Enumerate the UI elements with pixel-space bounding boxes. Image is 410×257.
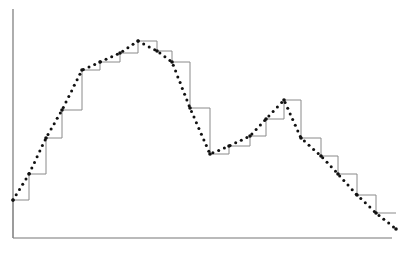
vertex-point bbox=[27, 172, 31, 176]
dot bbox=[294, 124, 297, 127]
dot bbox=[286, 107, 289, 110]
vertex-point bbox=[98, 60, 102, 64]
vertex-point bbox=[299, 136, 303, 140]
dot bbox=[205, 144, 208, 147]
dot bbox=[38, 150, 41, 153]
dot bbox=[190, 110, 193, 113]
dot bbox=[67, 95, 70, 98]
dot bbox=[368, 206, 371, 209]
dot bbox=[197, 127, 200, 130]
dot bbox=[211, 151, 214, 154]
vertex-point bbox=[155, 49, 159, 53]
dot bbox=[56, 117, 59, 120]
dot bbox=[47, 133, 50, 136]
dot bbox=[217, 149, 220, 152]
dot bbox=[105, 58, 108, 61]
dot bbox=[223, 146, 226, 149]
dot bbox=[185, 99, 188, 102]
dot bbox=[176, 75, 179, 78]
dot bbox=[359, 197, 362, 200]
dot bbox=[267, 115, 270, 118]
dot bbox=[308, 144, 311, 147]
dot bbox=[255, 128, 258, 131]
dot bbox=[88, 65, 91, 68]
dot bbox=[259, 124, 262, 127]
vertex-point bbox=[44, 136, 48, 140]
vertex-point bbox=[282, 98, 286, 102]
dot bbox=[326, 161, 329, 164]
dot bbox=[21, 183, 24, 186]
dot bbox=[158, 52, 161, 55]
dot bbox=[303, 140, 306, 143]
dot bbox=[351, 188, 354, 191]
dot bbox=[110, 55, 113, 58]
dot bbox=[59, 111, 62, 114]
dot bbox=[148, 45, 151, 48]
dot bbox=[200, 133, 203, 136]
dot bbox=[142, 43, 145, 46]
dot bbox=[312, 148, 315, 151]
vertex-point bbox=[227, 144, 231, 148]
vertex-point bbox=[80, 68, 84, 72]
dot bbox=[193, 116, 196, 119]
vertex-point bbox=[136, 39, 140, 43]
vertex-point bbox=[60, 108, 64, 112]
vertex-point bbox=[248, 134, 252, 138]
vertex-point bbox=[319, 154, 323, 158]
dot bbox=[330, 165, 333, 168]
vertex-point bbox=[118, 51, 122, 55]
dot bbox=[245, 136, 248, 139]
dot bbox=[342, 179, 345, 182]
dot bbox=[174, 70, 177, 73]
dot bbox=[132, 43, 135, 46]
dot bbox=[364, 201, 367, 204]
vertex-point bbox=[11, 198, 15, 202]
vertex-point bbox=[264, 117, 268, 121]
dot bbox=[121, 50, 124, 53]
dot bbox=[15, 193, 18, 196]
dot bbox=[126, 46, 129, 49]
dot bbox=[347, 184, 350, 187]
dot bbox=[382, 218, 385, 221]
vertex-point bbox=[374, 211, 378, 215]
dot bbox=[70, 89, 73, 92]
dot bbox=[65, 100, 68, 103]
dot bbox=[276, 106, 279, 109]
dot bbox=[73, 84, 76, 87]
dot bbox=[179, 81, 182, 84]
dot bbox=[33, 161, 36, 164]
dot bbox=[334, 170, 337, 173]
dot bbox=[18, 188, 21, 191]
dot bbox=[234, 141, 237, 144]
dot bbox=[181, 87, 184, 90]
dotted-line bbox=[11, 39, 398, 231]
dot bbox=[291, 118, 294, 121]
vertex-point bbox=[355, 193, 359, 197]
dot bbox=[93, 63, 96, 66]
chart bbox=[0, 0, 410, 257]
dot bbox=[240, 139, 243, 142]
dot bbox=[163, 55, 166, 58]
dot bbox=[53, 122, 56, 125]
dot bbox=[36, 155, 39, 158]
dot bbox=[202, 138, 205, 141]
vertex-point bbox=[394, 227, 398, 231]
dot bbox=[76, 78, 79, 81]
dot bbox=[387, 222, 390, 225]
vertex-point bbox=[188, 106, 192, 110]
dot bbox=[317, 152, 320, 155]
vertex-point bbox=[336, 172, 340, 176]
dot bbox=[195, 121, 198, 124]
dot bbox=[41, 144, 44, 147]
dot bbox=[296, 129, 299, 132]
dot bbox=[50, 128, 53, 131]
vertex-point bbox=[208, 152, 212, 156]
dot bbox=[289, 112, 292, 115]
dot bbox=[183, 93, 186, 96]
dot bbox=[280, 101, 283, 104]
dot bbox=[172, 64, 175, 67]
dot bbox=[272, 110, 275, 113]
dot bbox=[25, 177, 28, 180]
dot bbox=[30, 167, 33, 170]
dot bbox=[378, 214, 381, 217]
